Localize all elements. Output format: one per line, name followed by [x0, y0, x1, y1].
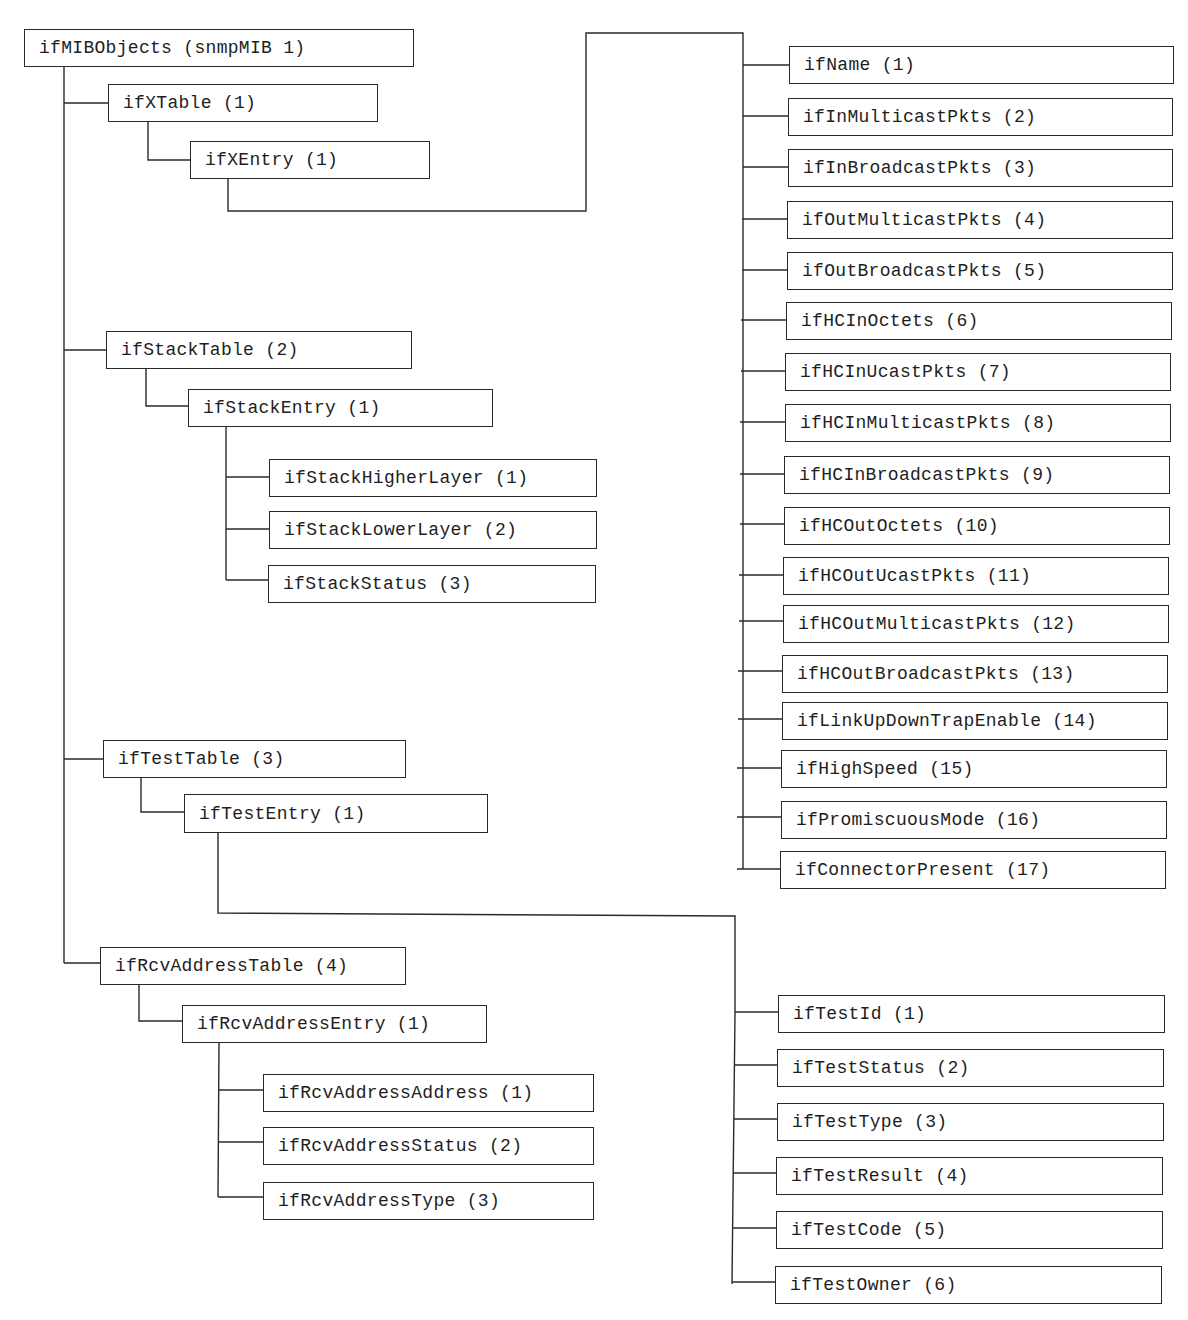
node-if-high-speed: ifHighSpeed (15) — [781, 750, 1167, 788]
node-if-hcout-octets: ifHCOutOctets (10) — [784, 507, 1170, 545]
node-if-test-owner: ifTestOwner (6) — [775, 1266, 1162, 1304]
node-if-name: ifName (1) — [789, 46, 1174, 84]
node-if-hcout-ucast-pkts: ifHCOutUcastPkts (11) — [783, 557, 1169, 595]
node-label: ifHCInMulticastPkts (8) — [800, 414, 1055, 432]
node-if-hcout-multicast-pkts: ifHCOutMulticastPkts (12) — [783, 605, 1169, 643]
node-label: ifOutMulticastPkts (4) — [802, 211, 1046, 229]
node-label: ifHighSpeed (15) — [796, 760, 974, 778]
mib-tree-diagram: ifMIBObjects (snmpMIB 1)ifXTable (1)ifXE… — [0, 0, 1188, 1320]
node-label: ifTestTable (3) — [118, 750, 285, 768]
node-if-stack-lower-layer: ifStackLowerLayer (2) — [269, 511, 597, 549]
node-label: ifHCInUcastPkts (7) — [800, 363, 1011, 381]
connector-ifTestEntry-trunk — [732, 1013, 735, 1284]
node-label: ifStackStatus (3) — [283, 575, 472, 593]
node-if-connector-present: ifConnectorPresent (17) — [780, 851, 1166, 889]
node-label: ifRcvAddressType (3) — [278, 1192, 500, 1210]
node-if-xtable: ifXTable (1) — [108, 84, 378, 122]
node-if-out-multicast-pkts: ifOutMulticastPkts (4) — [787, 201, 1173, 239]
node-if-in-multicast-pkts: ifInMulticastPkts (2) — [788, 98, 1173, 136]
node-if-test-code: ifTestCode (5) — [776, 1211, 1163, 1249]
node-if-test-type: ifTestType (3) — [777, 1103, 1164, 1141]
node-label: ifXEntry (1) — [205, 151, 338, 169]
node-label: ifPromiscuousMode (16) — [796, 811, 1040, 829]
node-label: ifInBroadcastPkts (3) — [803, 159, 1036, 177]
connector-ifRcvAddressEntry-trunk — [218, 1043, 219, 1197]
node-label: ifHCOutMulticastPkts (12) — [798, 615, 1076, 633]
node-label: ifHCInOctets (6) — [801, 312, 979, 330]
node-if-rcv-address-entry: ifRcvAddressEntry (1) — [182, 1005, 487, 1043]
node-label: ifTestStatus (2) — [792, 1059, 970, 1077]
node-if-out-broadcast-pkts: ifOutBroadcastPkts (5) — [787, 252, 1173, 290]
node-label: ifHCOutBroadcastPkts (13) — [797, 665, 1075, 683]
node-label: ifTestEntry (1) — [199, 805, 366, 823]
node-label: ifStackEntry (1) — [203, 399, 381, 417]
node-if-rcv-address-status: ifRcvAddressStatus (2) — [263, 1127, 594, 1165]
node-if-promiscuous-mode: ifPromiscuousMode (16) — [781, 801, 1167, 839]
node-if-rcv-address-address: ifRcvAddressAddress (1) — [263, 1074, 594, 1112]
node-label: ifStackTable (2) — [121, 341, 299, 359]
node-label: ifConnectorPresent (17) — [795, 861, 1050, 879]
node-if-rcv-address-type: ifRcvAddressType (3) — [263, 1182, 594, 1220]
node-if-hcin-multicast-pkts: ifHCInMulticastPkts (8) — [785, 404, 1171, 442]
node-if-link-up-down-trap-enable: ifLinkUpDownTrapEnable (14) — [782, 702, 1168, 740]
connector-ifTestTable-ifTestEntry — [141, 778, 184, 812]
node-if-stack-higher-layer: ifStackHigherLayer (1) — [269, 459, 597, 497]
node-if-hcout-broadcast-pkts: ifHCOutBroadcastPkts (13) — [782, 655, 1168, 693]
connector-ifTestEntry-route — [218, 833, 735, 1013]
node-label: ifName (1) — [804, 56, 915, 74]
node-label: ifRcvAddressStatus (2) — [278, 1137, 522, 1155]
node-root: ifMIBObjects (snmpMIB 1) — [24, 29, 414, 67]
node-label: ifTestCode (5) — [791, 1221, 946, 1239]
node-if-stack-entry: ifStackEntry (1) — [188, 389, 493, 427]
node-label: ifStackLowerLayer (2) — [284, 521, 517, 539]
node-label: ifInMulticastPkts (2) — [803, 108, 1036, 126]
connector-ifStackTable-ifStackEntry — [146, 369, 188, 406]
node-label: ifStackHigherLayer (1) — [284, 469, 528, 487]
node-label: ifRcvAddressAddress (1) — [278, 1084, 533, 1102]
node-label: ifMIBObjects (snmpMIB 1) — [39, 39, 305, 57]
node-if-hcin-ucast-pkts: ifHCInUcastPkts (7) — [785, 353, 1171, 391]
node-label: ifHCOutOctets (10) — [799, 517, 999, 535]
node-if-hcin-broadcast-pkts: ifHCInBroadcastPkts (9) — [784, 456, 1170, 494]
node-if-test-table: ifTestTable (3) — [103, 740, 406, 778]
node-if-hcin-octets: ifHCInOctets (6) — [786, 302, 1172, 340]
node-if-stack-status: ifStackStatus (3) — [268, 565, 596, 603]
node-if-rcv-address-table: ifRcvAddressTable (4) — [100, 947, 406, 985]
node-label: ifTestId (1) — [793, 1005, 926, 1023]
node-label: ifRcvAddressTable (4) — [115, 957, 348, 975]
node-if-in-broadcast-pkts: ifInBroadcastPkts (3) — [788, 149, 1173, 187]
node-if-xentry: ifXEntry (1) — [190, 141, 430, 179]
node-label: ifTestType (3) — [792, 1113, 947, 1131]
node-label: ifRcvAddressEntry (1) — [197, 1015, 430, 1033]
node-label: ifXTable (1) — [123, 94, 256, 112]
node-if-test-status: ifTestStatus (2) — [777, 1049, 1164, 1087]
node-label: ifLinkUpDownTrapEnable (14) — [797, 712, 1097, 730]
node-if-test-result: ifTestResult (4) — [776, 1157, 1163, 1195]
node-if-test-id: ifTestId (1) — [778, 995, 1165, 1033]
node-label: ifOutBroadcastPkts (5) — [802, 262, 1046, 280]
node-label: ifTestResult (4) — [791, 1167, 969, 1185]
node-label: ifHCOutUcastPkts (11) — [798, 567, 1031, 585]
node-label: ifHCInBroadcastPkts (9) — [799, 466, 1054, 484]
node-label: ifTestOwner (6) — [790, 1276, 957, 1294]
connector-ifRcvAddressTable-ifRcvAddressEntry — [139, 985, 182, 1021]
node-if-stack-table: ifStackTable (2) — [106, 331, 412, 369]
node-if-test-entry: ifTestEntry (1) — [184, 794, 488, 833]
connector-ifXTable-ifXEntry — [148, 122, 190, 160]
